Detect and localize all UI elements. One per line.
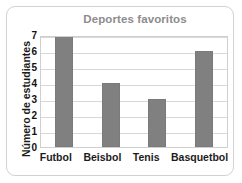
x-axis-tick-label: Tenis [133,151,160,163]
plot-area [40,36,228,148]
chart-title: Deportes favoritos [40,13,230,25]
y-axis-tick-label: 6 [26,47,37,57]
bar [148,99,166,147]
y-axis-tick-label: 2 [26,111,37,121]
bar [55,36,73,147]
y-axis-tick-label: 3 [26,95,37,105]
x-axis-tick-label: Futbol [40,151,72,163]
bar [102,83,120,147]
x-axis-tick-label: Basquetbol [171,151,228,163]
y-axis-tick-label: 5 [26,63,37,73]
y-axis-tick-label: 4 [26,79,37,89]
chart-screenshot: Deportes favoritos Número de estudiantes… [0,0,242,183]
x-axis-tick-labels: FutbolBeisbolTenisBasquetbol [34,151,234,163]
x-axis-tick-label: Beisbol [83,151,121,163]
bar-series [41,37,227,147]
y-axis-tick-label: 7 [26,31,37,41]
y-axis-tick-label: 1 [26,127,37,137]
y-axis-tick-labels: 76543210 [26,36,37,148]
bar [195,51,213,147]
